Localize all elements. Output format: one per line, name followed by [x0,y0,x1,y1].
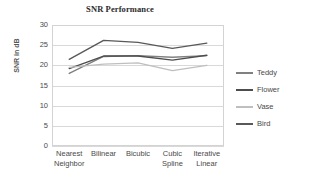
legend-swatch-icon [236,123,253,125]
y-tick-label: 15 [26,82,48,90]
legend-label: Vase [257,102,274,111]
chart-title: SNR Performance [0,4,240,14]
legend-item-teddy[interactable]: Teddy [236,64,310,81]
legend-label: Teddy [257,68,277,77]
y-tick-label: 30 [26,21,48,29]
y-tick-label: 25 [26,41,48,49]
x-tick-label-line: Iterative [179,149,235,159]
legend-swatch-icon [236,106,253,108]
chart-legend: TeddyFlowerVaseBird [236,64,310,132]
y-tick-label: 10 [26,102,48,110]
y-tick-label: 5 [26,122,48,130]
series-lines [52,25,224,146]
snr-performance-chart: SNR Performance SNR in dB 051015202530 N… [0,0,312,190]
x-tick-label-line: Linear [179,159,235,169]
legend-item-flower[interactable]: Flower [236,81,310,98]
plot-area [52,25,224,146]
y-tick-label: 20 [26,61,48,69]
legend-label: Flower [257,85,280,94]
x-axis-tick-labels: NearestNeighborBilinearBicubicCubicSplin… [52,149,224,183]
gridline [52,146,224,147]
legend-label: Bird [257,119,270,128]
legend-item-vase[interactable]: Vase [236,98,310,115]
legend-swatch-icon [236,89,253,91]
legend-item-bird[interactable]: Bird [236,115,310,132]
y-axis-tick-labels: 051015202530 [26,21,48,146]
y-axis-label: SNR in dB [13,26,20,86]
legend-swatch-icon [236,72,253,74]
x-tick-label-line: Neighbor [41,159,97,169]
series-line-vase [69,63,207,71]
x-tick-label: IterativeLinear [179,149,235,168]
